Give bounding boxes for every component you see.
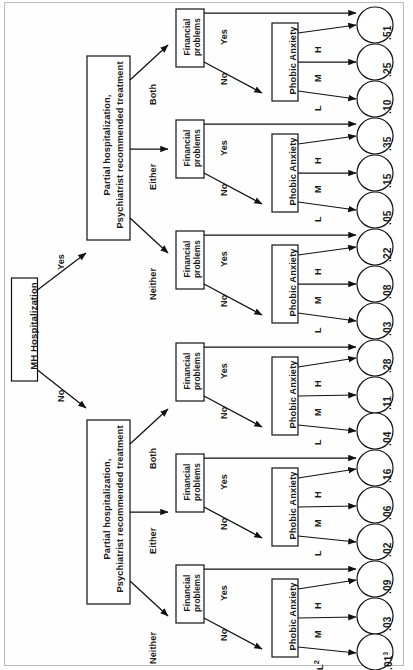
edge-label-financial-no: No bbox=[219, 629, 229, 641]
leaf-value: .16 bbox=[382, 469, 393, 483]
decision-tree-graphic bbox=[0, 0, 413, 670]
edge-label-anxiety-med: M bbox=[313, 519, 323, 527]
leaf-value: .03 bbox=[382, 322, 393, 336]
edge-label-anxiety-med: M bbox=[313, 408, 323, 416]
leaf-value: .02 bbox=[382, 543, 393, 557]
edge-label-anxiety-med: M bbox=[313, 296, 323, 304]
edge-label-financial-no: No bbox=[219, 518, 229, 530]
edge-label-root-no: No bbox=[56, 390, 66, 402]
edge-label-anxiety-high: H bbox=[313, 491, 323, 498]
node-financial-label-line1: Financial bbox=[183, 344, 192, 398]
leaf-value: .05 bbox=[382, 211, 393, 225]
node-phobic-anxiety-label: Phobic Anxiety bbox=[288, 468, 298, 543]
node-phobic-anxiety-label: Phobic Anxiety bbox=[288, 579, 298, 654]
edge-label-either-upper: Either bbox=[148, 164, 158, 190]
leaf-value: .09 bbox=[382, 580, 393, 594]
edge-label-anxiety-low: L bbox=[313, 327, 323, 333]
leaf-value: .15 bbox=[382, 174, 393, 188]
edge-label-financial-no: No bbox=[219, 184, 229, 196]
edge-label-anxiety-low: L bbox=[313, 439, 323, 445]
node-financial-label-line1: Financial bbox=[183, 10, 192, 64]
edge-label-anxiety-high: H bbox=[313, 380, 323, 387]
node-phobic-anxiety-label: Phobic Anxiety bbox=[288, 245, 298, 320]
node-phobic-anxiety-label: Phobic Anxiety bbox=[288, 23, 298, 98]
edge-label-anxiety-med: M bbox=[313, 185, 323, 193]
edge-label-financial-yes: Yes bbox=[219, 140, 229, 156]
node-financial-label-line2: problems bbox=[193, 121, 202, 175]
edge-label-neither-upper: Neither bbox=[148, 268, 158, 300]
edge-label-anxiety-high: H bbox=[313, 602, 323, 609]
edge-label-anxiety-med: M bbox=[313, 630, 323, 638]
leaf-value: .03 bbox=[382, 617, 393, 631]
diagram-page: MH Hospitalization Yes No Partial hospit… bbox=[0, 0, 413, 670]
edge-label-anxiety-high: H bbox=[313, 268, 323, 275]
node-financial-label-line1: Financial bbox=[183, 232, 192, 286]
edge-label-financial-no: No bbox=[219, 73, 229, 85]
edge-label-anxiety-high: H bbox=[313, 157, 323, 164]
edge-label-financial-yes: Yes bbox=[219, 474, 229, 490]
leaf-value: .51 bbox=[382, 26, 393, 40]
edge-label-anxiety-low-note: L2 bbox=[313, 660, 325, 670]
edge-label-financial-yes: Yes bbox=[219, 585, 229, 601]
node-financial-label-line1: Financial bbox=[183, 455, 192, 509]
leaf-value: .22 bbox=[382, 248, 393, 262]
leaf-value: .013 bbox=[382, 652, 395, 670]
edge-label-financial-yes: Yes bbox=[219, 29, 229, 45]
edge-label-anxiety-high: H bbox=[313, 46, 323, 53]
node-financial-label-line1: Financial bbox=[183, 566, 192, 620]
node-treatment-label-upper-line1: Partial hospitalization, bbox=[102, 55, 112, 235]
node-phobic-anxiety-label: Phobic Anxiety bbox=[288, 134, 298, 209]
edge-label-neither-lower: Neither bbox=[148, 632, 158, 664]
node-financial-label-line1: Financial bbox=[183, 121, 192, 175]
leaf-value: .11 bbox=[382, 396, 393, 410]
edge-label-anxiety-med: M bbox=[313, 74, 323, 82]
leaf-value: .06 bbox=[382, 506, 393, 520]
edge-label-both-upper: Both bbox=[148, 84, 158, 105]
node-financial-label-line2: problems bbox=[193, 566, 202, 620]
edge-label-financial-yes: Yes bbox=[219, 363, 229, 379]
node-root-label: MH Hospitalization bbox=[29, 277, 40, 375]
leaf-value: .25 bbox=[382, 63, 393, 77]
edge-label-both-lower: Both bbox=[148, 448, 158, 469]
node-financial-label-line2: problems bbox=[193, 455, 202, 509]
leaf-value: .10 bbox=[382, 100, 393, 114]
node-financial-label-line2: problems bbox=[193, 232, 202, 286]
edge-label-anxiety-low: L bbox=[313, 216, 323, 222]
leaf-value: .35 bbox=[382, 137, 393, 151]
edge-label-either-lower: Either bbox=[148, 528, 158, 554]
leaf-value: .28 bbox=[382, 359, 393, 373]
leaf-value: .04 bbox=[382, 432, 393, 446]
edge-label-financial-yes: Yes bbox=[219, 251, 229, 267]
edge-label-anxiety-low: L bbox=[313, 550, 323, 556]
edge-label-financial-no: No bbox=[219, 295, 229, 307]
node-phobic-anxiety-label: Phobic Anxiety bbox=[288, 357, 298, 432]
node-treatment-label-lower-line2: Psychiatrist recommended treatment bbox=[115, 419, 125, 599]
node-financial-label-line2: problems bbox=[193, 10, 202, 64]
node-treatment-label-lower-line1: Partial hospitalization, bbox=[102, 419, 112, 599]
node-financial-label-line2: problems bbox=[193, 344, 202, 398]
edge-label-anxiety-low: L bbox=[313, 105, 323, 111]
leaf-value: .08 bbox=[382, 285, 393, 299]
edge-label-financial-no: No bbox=[219, 407, 229, 419]
edge-label-root-yes: Yes bbox=[56, 254, 66, 270]
node-treatment-label-upper-line2: Psychiatrist recommended treatment bbox=[115, 55, 125, 235]
